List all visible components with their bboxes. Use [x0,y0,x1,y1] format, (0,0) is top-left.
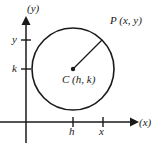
x-tick-label-h: h [69,126,75,137]
y-tick-label-y: y [12,34,17,45]
x-axis-arrowhead [130,118,139,127]
y-tick-label-k: k [12,63,17,74]
center-point-label: C (h, k) [62,74,95,85]
y-axis-arrowhead [22,16,31,25]
circle-diagram-figure: (y) (x) y k h x C (h, k) P (x, y) [0,0,162,148]
radius-segment [73,40,102,69]
x-axis-label: (x) [139,117,151,128]
center-point-dot [71,67,75,71]
x-tick-label-x: x [99,126,104,137]
point-p-label: P (x, y) [110,15,142,26]
y-axis-label: (y) [27,3,39,14]
